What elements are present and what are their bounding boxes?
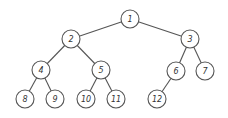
node-label: 8 [22, 95, 27, 104]
node-label: 3 [187, 35, 192, 44]
node-label: 10 [81, 95, 91, 104]
tree-node-1: 1 [121, 10, 139, 28]
nodes-layer: 123456789101112 [16, 10, 214, 108]
edges-layer [25, 19, 205, 99]
node-label: 6 [173, 67, 178, 76]
node-label: 5 [98, 66, 103, 75]
node-label: 4 [38, 66, 43, 75]
tree-node-11: 11 [107, 90, 125, 108]
tree-node-2: 2 [62, 30, 80, 48]
node-label: 1 [127, 15, 132, 24]
tree-node-4: 4 [32, 61, 50, 79]
node-label: 9 [52, 95, 57, 104]
tree-node-5: 5 [92, 61, 110, 79]
tree-node-12: 12 [148, 90, 166, 108]
tree-node-6: 6 [167, 62, 185, 80]
binary-tree-diagram: 123456789101112 [0, 0, 228, 118]
tree-node-10: 10 [77, 90, 95, 108]
tree-node-7: 7 [196, 62, 214, 80]
node-label: 2 [68, 35, 73, 44]
node-label: 11 [111, 95, 121, 104]
node-label: 12 [152, 95, 162, 104]
tree-node-8: 8 [16, 90, 34, 108]
tree-node-9: 9 [46, 90, 64, 108]
tree-node-3: 3 [181, 30, 199, 48]
